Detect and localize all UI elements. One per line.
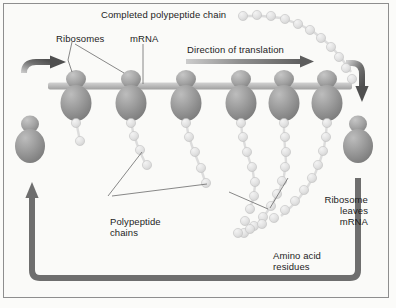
- label-mrna: mRNA: [130, 33, 158, 44]
- label-ribosome-leaves-line2: leaves: [288, 205, 368, 216]
- label-amino-acid-line2: residues: [273, 261, 310, 272]
- mrna-strand: [48, 83, 352, 90]
- entry-arrow: [24, 55, 66, 73]
- figure-canvas: Completed polypeptide chain Ribosomes mR…: [0, 0, 396, 308]
- polypeptide-chain-3: [181, 118, 210, 187]
- direction-of-translation-arrow: [186, 56, 314, 68]
- free-ribosome-leaving: [343, 116, 373, 164]
- polypeptide-chain-2: [126, 118, 151, 169]
- free-ribosome-entering: [15, 116, 45, 164]
- label-amino-acid-line1: Amino acid: [273, 250, 321, 261]
- label-ribosome-leaves-line1: Ribosome: [288, 194, 368, 205]
- bound-ribosome-5: [269, 70, 300, 121]
- label-ribosome-leaves-line3: mRNA: [288, 216, 368, 227]
- bound-ribosome-3: [171, 70, 202, 121]
- label-polypeptide-chains-line2: chains: [110, 227, 138, 238]
- polypeptide-chain-4: [236, 118, 259, 225]
- leader-polypeptide-1: [108, 152, 142, 196]
- label-ribosomes: Ribosomes: [56, 33, 104, 44]
- leader-polypeptide-2: [112, 184, 207, 196]
- label-polypeptide-chains-line1: Polypeptide: [110, 216, 161, 227]
- leader-ribosomes-1: [68, 42, 72, 72]
- label-completed-chain: Completed polypeptide chain: [101, 9, 226, 20]
- bound-ribosome-1: [61, 70, 92, 121]
- bound-ribosome-4: [226, 70, 257, 121]
- bound-ribosome-2: [116, 70, 147, 121]
- bound-ribosome-6: [312, 70, 343, 121]
- label-direction-of-translation: Direction of translation: [187, 44, 284, 55]
- leader-ribosomes-2: [75, 44, 124, 73]
- polypeptide-chain-1: [71, 118, 84, 145]
